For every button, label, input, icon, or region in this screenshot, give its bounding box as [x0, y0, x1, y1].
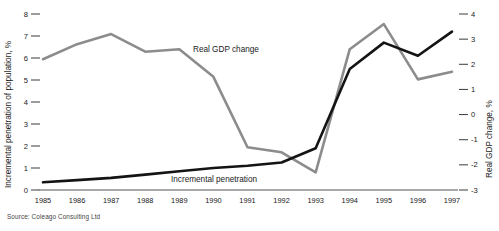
x-axis-year-label: 1995 — [376, 196, 392, 205]
chart-container: Incremental penetration of population, %… — [0, 0, 499, 231]
x-axis-year-labels: 1985198619871988198919901991199219931994… — [35, 196, 460, 205]
right-axis-title: Real GDP change, % — [485, 100, 494, 178]
right-tick-label: -1 — [471, 135, 478, 144]
line-chart-svg: Incremental penetration of population, %… — [0, 0, 499, 231]
x-axis-year-label: 1997 — [444, 196, 460, 205]
left-tick-label: 3 — [24, 120, 28, 129]
right-tick-label: 0 — [471, 110, 475, 119]
left-tick-label: 4 — [24, 98, 28, 107]
left-tick-label: 7 — [24, 32, 28, 41]
source-note: Source: Coleago Consulting Ltd — [7, 213, 100, 220]
series-line-incremental-penetration — [43, 32, 452, 183]
left-tick-label: 5 — [24, 76, 28, 85]
left-tick-label: 2 — [24, 142, 28, 151]
right-tick-label: 2 — [471, 60, 475, 69]
right-axis-ticks: -3-2-101234 — [459, 10, 478, 195]
x-axis-year-label: 1989 — [171, 196, 187, 205]
x-axis-year-label: 1991 — [239, 196, 255, 205]
x-axis-year-label: 1988 — [137, 196, 153, 205]
right-tick-label: -3 — [471, 186, 478, 195]
x-axis-year-label: 1986 — [69, 196, 85, 205]
annotation-real-gdp-change: Real GDP change — [193, 45, 259, 54]
right-tick-label: 1 — [471, 85, 475, 94]
left-tick-label: 1 — [24, 164, 28, 173]
x-axis-year-label: 1996 — [410, 196, 426, 205]
left-tick-label: 6 — [24, 54, 28, 63]
x-axis-year-label: 1993 — [307, 196, 323, 205]
x-axis-year-label: 1985 — [35, 196, 51, 205]
x-axis-year-label: 1990 — [205, 196, 221, 205]
right-tick-label: -2 — [471, 160, 478, 169]
annotation-incremental-penetration: Incremental penetration — [171, 175, 257, 184]
left-axis-title: Incremental penetration of population, % — [4, 41, 13, 188]
right-tick-label: 3 — [471, 35, 475, 44]
right-tick-label: 4 — [471, 10, 475, 19]
x-axis-year-label: 1987 — [103, 196, 119, 205]
left-axis-ticks: 012345678 — [24, 10, 40, 195]
x-axis-year-label: 1994 — [342, 196, 358, 205]
x-axis-year-label: 1992 — [273, 196, 289, 205]
left-tick-label: 8 — [24, 10, 28, 19]
left-tick-label: 0 — [24, 186, 28, 195]
